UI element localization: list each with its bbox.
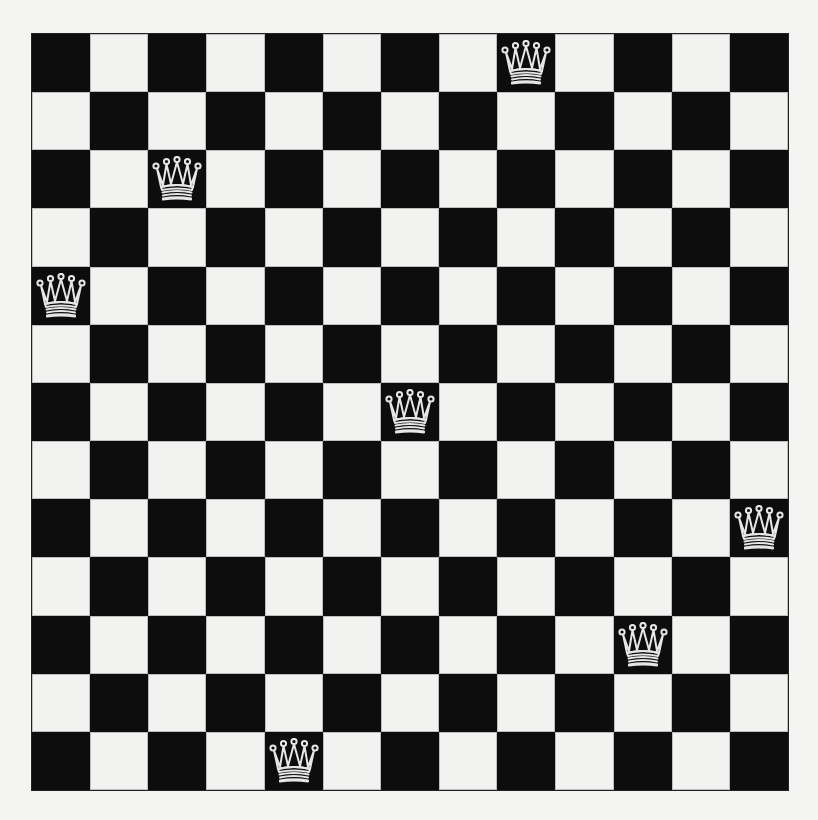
board-square-r1-c4[interactable] — [265, 92, 323, 150]
board-square-r2-c5[interactable] — [323, 150, 381, 208]
board-square-r12-c4[interactable] — [265, 732, 323, 790]
board-square-r10-c9[interactable] — [555, 616, 613, 674]
board-square-r0-c1[interactable] — [90, 34, 148, 92]
board-square-r0-c5[interactable] — [323, 34, 381, 92]
board-square-r1-c2[interactable] — [148, 92, 206, 150]
board-square-r0-c12[interactable] — [730, 34, 788, 92]
board-square-r3-c8[interactable] — [497, 208, 555, 266]
queen-icon[interactable] — [617, 622, 669, 668]
board-square-r9-c11[interactable] — [672, 557, 730, 615]
board-square-r7-c10[interactable] — [614, 441, 672, 499]
board-square-r10-c1[interactable] — [90, 616, 148, 674]
board-square-r12-c1[interactable] — [90, 732, 148, 790]
board-square-r4-c2[interactable] — [148, 267, 206, 325]
board-square-r1-c3[interactable] — [206, 92, 264, 150]
board-square-r4-c3[interactable] — [206, 267, 264, 325]
board-square-r5-c3[interactable] — [206, 325, 264, 383]
board-square-r10-c0[interactable] — [32, 616, 90, 674]
board-square-r6-c6[interactable] — [381, 383, 439, 441]
board-square-r7-c4[interactable] — [265, 441, 323, 499]
board-square-r3-c10[interactable] — [614, 208, 672, 266]
board-square-r2-c1[interactable] — [90, 150, 148, 208]
board-square-r7-c11[interactable] — [672, 441, 730, 499]
board-square-r9-c1[interactable] — [90, 557, 148, 615]
board-square-r8-c9[interactable] — [555, 499, 613, 557]
board-square-r3-c12[interactable] — [730, 208, 788, 266]
board-square-r4-c6[interactable] — [381, 267, 439, 325]
board-square-r4-c8[interactable] — [497, 267, 555, 325]
board-square-r5-c7[interactable] — [439, 325, 497, 383]
board-square-r11-c10[interactable] — [614, 674, 672, 732]
board-square-r9-c6[interactable] — [381, 557, 439, 615]
board-square-r1-c12[interactable] — [730, 92, 788, 150]
board-square-r6-c2[interactable] — [148, 383, 206, 441]
board-square-r10-c11[interactable] — [672, 616, 730, 674]
board-square-r5-c1[interactable] — [90, 325, 148, 383]
board-square-r8-c10[interactable] — [614, 499, 672, 557]
board-square-r4-c5[interactable] — [323, 267, 381, 325]
board-square-r12-c12[interactable] — [730, 732, 788, 790]
board-square-r12-c8[interactable] — [497, 732, 555, 790]
board-square-r2-c11[interactable] — [672, 150, 730, 208]
board-square-r3-c7[interactable] — [439, 208, 497, 266]
board-square-r11-c2[interactable] — [148, 674, 206, 732]
board-square-r7-c5[interactable] — [323, 441, 381, 499]
board-square-r6-c5[interactable] — [323, 383, 381, 441]
board-square-r8-c1[interactable] — [90, 499, 148, 557]
queen-icon[interactable] — [151, 156, 203, 202]
board-square-r12-c0[interactable] — [32, 732, 90, 790]
board-square-r5-c5[interactable] — [323, 325, 381, 383]
board-square-r12-c6[interactable] — [381, 732, 439, 790]
board-square-r10-c12[interactable] — [730, 616, 788, 674]
board-square-r5-c4[interactable] — [265, 325, 323, 383]
board-square-r9-c12[interactable] — [730, 557, 788, 615]
board-square-r9-c3[interactable] — [206, 557, 264, 615]
board-square-r2-c10[interactable] — [614, 150, 672, 208]
board-square-r7-c6[interactable] — [381, 441, 439, 499]
board-square-r2-c8[interactable] — [497, 150, 555, 208]
board-square-r6-c10[interactable] — [614, 383, 672, 441]
board-square-r8-c5[interactable] — [323, 499, 381, 557]
board-square-r1-c7[interactable] — [439, 92, 497, 150]
board-square-r11-c6[interactable] — [381, 674, 439, 732]
board-square-r8-c11[interactable] — [672, 499, 730, 557]
board-square-r5-c11[interactable] — [672, 325, 730, 383]
board-square-r12-c2[interactable] — [148, 732, 206, 790]
queen-icon[interactable] — [268, 738, 320, 784]
board-square-r10-c6[interactable] — [381, 616, 439, 674]
board-square-r1-c8[interactable] — [497, 92, 555, 150]
board-square-r2-c3[interactable] — [206, 150, 264, 208]
board-square-r9-c9[interactable] — [555, 557, 613, 615]
board-square-r9-c4[interactable] — [265, 557, 323, 615]
board-square-r8-c7[interactable] — [439, 499, 497, 557]
board-square-r12-c7[interactable] — [439, 732, 497, 790]
board-square-r7-c3[interactable] — [206, 441, 264, 499]
board-square-r1-c5[interactable] — [323, 92, 381, 150]
board-square-r7-c8[interactable] — [497, 441, 555, 499]
board-square-r7-c0[interactable] — [32, 441, 90, 499]
board-square-r0-c6[interactable] — [381, 34, 439, 92]
queen-icon[interactable] — [384, 389, 436, 435]
board-square-r5-c12[interactable] — [730, 325, 788, 383]
board-square-r1-c11[interactable] — [672, 92, 730, 150]
board-square-r0-c3[interactable] — [206, 34, 264, 92]
board-square-r4-c7[interactable] — [439, 267, 497, 325]
board-square-r11-c0[interactable] — [32, 674, 90, 732]
board-square-r2-c2[interactable] — [148, 150, 206, 208]
board-square-r7-c9[interactable] — [555, 441, 613, 499]
board-square-r6-c11[interactable] — [672, 383, 730, 441]
board-square-r9-c8[interactable] — [497, 557, 555, 615]
board-square-r8-c2[interactable] — [148, 499, 206, 557]
board-square-r3-c6[interactable] — [381, 208, 439, 266]
board-square-r4-c1[interactable] — [90, 267, 148, 325]
board-square-r2-c12[interactable] — [730, 150, 788, 208]
board-square-r1-c9[interactable] — [555, 92, 613, 150]
board-square-r9-c2[interactable] — [148, 557, 206, 615]
board-square-r4-c12[interactable] — [730, 267, 788, 325]
board-square-r12-c9[interactable] — [555, 732, 613, 790]
board-square-r5-c10[interactable] — [614, 325, 672, 383]
board-square-r8-c0[interactable] — [32, 499, 90, 557]
board-square-r7-c1[interactable] — [90, 441, 148, 499]
board-square-r6-c12[interactable] — [730, 383, 788, 441]
board-square-r0-c11[interactable] — [672, 34, 730, 92]
